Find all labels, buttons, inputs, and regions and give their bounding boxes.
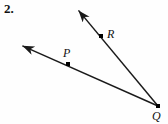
geometry-diagram bbox=[0, 0, 168, 124]
point-q-dot bbox=[156, 104, 160, 108]
ray-qr-line bbox=[78, 10, 158, 106]
point-q-label: Q bbox=[152, 110, 161, 122]
ray-qp-line bbox=[22, 46, 158, 106]
geometry-figure: 2. P R Q bbox=[0, 0, 168, 124]
point-r-dot bbox=[99, 34, 103, 38]
point-r-label: R bbox=[107, 28, 114, 40]
point-p-dot bbox=[66, 62, 70, 66]
point-p-label: P bbox=[63, 47, 70, 59]
